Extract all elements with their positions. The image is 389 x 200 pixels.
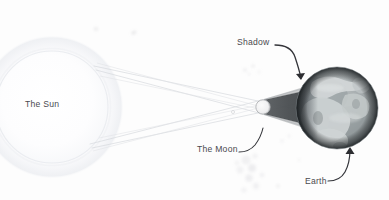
moon-body <box>256 100 270 114</box>
shadow-arrowhead <box>296 73 305 80</box>
earth-body <box>292 67 389 153</box>
moon-dust-cluster <box>235 153 265 192</box>
moon-leader-line <box>239 128 263 152</box>
sun-body <box>0 35 124 179</box>
shadow-leader-line <box>275 45 301 78</box>
ray-crossing-point <box>232 111 235 114</box>
eclipse-diagram-canvas: The Sun Shadow The Moon Earth <box>0 0 389 200</box>
label-the-moon: The Moon <box>197 144 238 154</box>
label-the-sun: The Sun <box>25 99 59 109</box>
label-earth: Earth <box>305 176 327 186</box>
label-shadow: Shadow <box>237 37 270 47</box>
earth-surface-texture <box>292 67 389 153</box>
